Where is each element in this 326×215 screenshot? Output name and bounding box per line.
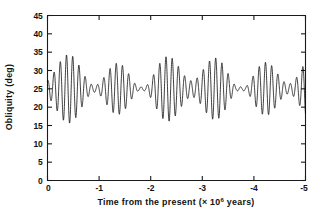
- data-series-group: [48, 55, 306, 123]
- y-tick-label: 30: [33, 66, 43, 76]
- x-axis-ticks: [48, 176, 306, 181]
- y-tick-label: 10: [33, 139, 43, 149]
- y-tick-label: 15: [33, 121, 43, 131]
- obliquity-curve: [48, 55, 306, 123]
- x-tick-label: -2: [147, 183, 155, 193]
- y-tick-label: 45: [33, 11, 43, 21]
- y-tick-label: 20: [33, 102, 43, 112]
- x-axis-label: Time from the present (× 106 years): [97, 197, 254, 207]
- x-tick-label: -4: [250, 183, 258, 193]
- x-tick-label: -5: [300, 183, 308, 193]
- x-axis-ticks-top: [48, 16, 306, 21]
- x-tick-label: -3: [199, 183, 207, 193]
- y-tick-label: 40: [33, 29, 43, 39]
- y-tick-label: 0: [38, 176, 43, 186]
- x-axis-tick-labels: 0-1-2-3-4-5: [46, 183, 308, 193]
- y-tick-label: 25: [33, 84, 43, 94]
- obliquity-chart-figure: 051015202530354045 0-1-2-3-4-5 Time from…: [0, 0, 326, 215]
- y-tick-label: 5: [38, 157, 43, 167]
- y-axis-tick-labels: 051015202530354045: [33, 11, 43, 186]
- x-tick-label: 0: [46, 183, 51, 193]
- y-axis-ticks: [48, 16, 53, 181]
- x-tick-label: -1: [96, 183, 104, 193]
- y-axis-label: Obliquity (deg): [4, 64, 14, 131]
- chart-canvas: 051015202530354045 0-1-2-3-4-5 Time from…: [0, 0, 326, 215]
- y-tick-label: 35: [33, 47, 43, 57]
